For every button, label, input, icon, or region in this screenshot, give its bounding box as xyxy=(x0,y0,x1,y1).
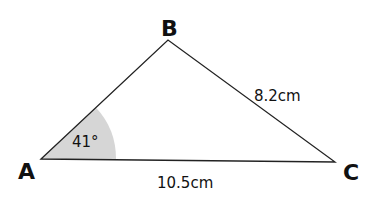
triangle-diagram: A B C 8.2cm 10.5cm 41° xyxy=(0,0,373,215)
vertex-label-a: A xyxy=(18,159,35,184)
angle-label-a: 41° xyxy=(72,133,99,151)
vertex-label-c: C xyxy=(343,160,359,185)
vertex-label-b: B xyxy=(161,16,178,41)
side-label-ac: 10.5cm xyxy=(157,174,213,192)
side-label-bc: 8.2cm xyxy=(254,87,301,105)
triangle-figure: A B C 8.2cm 10.5cm 41° xyxy=(0,0,373,215)
